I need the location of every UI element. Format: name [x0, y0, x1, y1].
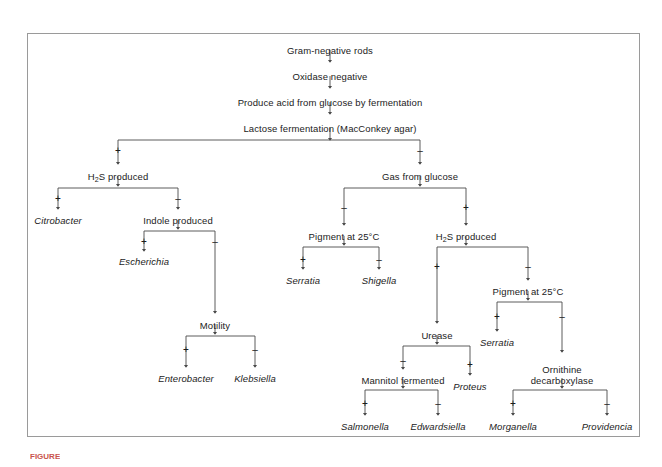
- sign-pig-right-pos: +: [494, 312, 500, 322]
- node-mannitol_fermented: Mannitol fermented: [361, 375, 444, 386]
- node-serratia_left: Serratia: [286, 275, 320, 286]
- node-pigment_25_left: Pigment at 25°C: [309, 231, 380, 242]
- node-morganella: Morganella: [489, 421, 537, 432]
- sign-lactose-pos: +: [115, 146, 121, 156]
- figure-page: Gram-negative rodsOxidase negativeProduc…: [0, 0, 662, 467]
- sign-h2s-left-pos: +: [55, 194, 61, 204]
- sign-h2s-right-neg: –: [525, 262, 531, 272]
- node-providencia: Providencia: [582, 421, 633, 432]
- node-proteus: Proteus: [453, 381, 486, 392]
- node-serratia_right: Serratia: [480, 337, 514, 348]
- sign-h2s-right-pos: +: [434, 262, 440, 272]
- figure-caption: FIGURE: [30, 452, 60, 467]
- sign-motility-pos: +: [183, 345, 189, 355]
- node-escherichia: Escherichia: [119, 256, 169, 267]
- node-indole_produced: Indole produced: [143, 215, 213, 226]
- sign-indole-pos: +: [141, 237, 147, 247]
- sign-urease-pos: +: [467, 360, 473, 370]
- sign-ornithine-pos: +: [510, 399, 516, 409]
- sign-mannitol-pos: +: [362, 399, 368, 409]
- sign-ornithine-neg: –: [604, 399, 610, 409]
- node-salmonella: Salmonella: [341, 421, 389, 432]
- sign-urease-neg: –: [400, 356, 406, 366]
- sign-pig-left-neg: –: [376, 255, 382, 265]
- sign-gas-pos: +: [463, 203, 469, 213]
- node-pigment_25_right: Pigment at 25°C: [493, 286, 564, 297]
- node-klebsiella: Klebsiella: [234, 373, 276, 384]
- sign-h2s-left-neg: –: [175, 194, 181, 204]
- sign-indole-neg: –: [212, 237, 218, 247]
- node-shigella: Shigella: [362, 275, 397, 286]
- node-gram_negative_rods: Gram-negative rods: [287, 45, 373, 56]
- node-edwardsiella: Edwardsiella: [410, 421, 465, 432]
- sign-gas-neg: –: [341, 203, 347, 213]
- sign-lactose-neg: –: [417, 146, 423, 156]
- node-citrobacter: Citrobacter: [34, 215, 82, 226]
- node-gas_from_glucose: Gas from glucose: [382, 171, 458, 182]
- node-urease: Urease: [421, 330, 452, 341]
- node-oxidase_negative: Oxidase negative: [292, 71, 367, 82]
- node-produce_acid: Produce acid from glucose by fermentatio…: [238, 97, 423, 108]
- node-enterobacter: Enterobacter: [158, 373, 214, 384]
- node-motility: Motility: [200, 320, 230, 331]
- node-ornithine_decarb: Ornithine decarboxylase: [525, 364, 599, 386]
- sign-motility-neg: –: [252, 345, 258, 355]
- node-h2s_produced_left: H2S produced: [88, 171, 149, 182]
- node-h2s_produced_right: H2S produced: [436, 231, 497, 242]
- sign-pig-left-pos: +: [300, 255, 306, 265]
- node-lactose_fermentation: Lactose fermentation (MacConkey agar): [243, 123, 416, 134]
- sign-pig-right-neg: –: [559, 312, 565, 322]
- sign-mannitol-neg: –: [435, 399, 441, 409]
